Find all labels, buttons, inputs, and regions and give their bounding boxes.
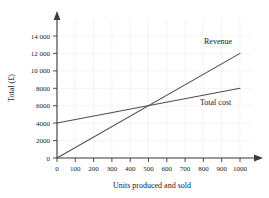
chart-plot-area: 0 2000 4000 6000 8000 10 000 12 000 14 0… [0,0,269,198]
y-tick-label: 12 000 [31,50,51,58]
x-tick-labels: 0 100 200 300 400 500 600 700 800 900 10… [55,165,247,173]
series-label-revenue: Revenue [204,37,232,46]
y-tick-label: 6000 [36,102,51,110]
x-axis-title: Units produced and sold [113,181,191,190]
y-axis-ticks [53,36,57,158]
break-even-chart: 0 2000 4000 6000 8000 10 000 12 000 14 0… [0,0,269,198]
y-tick-label: 4000 [36,120,51,128]
x-tick-label: 200 [88,165,99,173]
y-tick-label: 14 000 [31,33,51,41]
x-tick-label: 700 [180,165,191,173]
x-tick-label: 100 [70,165,81,173]
y-tick-labels: 0 2000 4000 6000 8000 10 000 12 000 14 0… [31,33,51,163]
series-label-total-cost: Total cost [200,98,232,107]
y-axis-arrow-icon [54,11,61,20]
x-tick-label: 0 [55,165,59,173]
y-tick-label: 0 [47,155,51,163]
x-axis [57,155,263,162]
x-tick-label: 500 [143,165,154,173]
x-tick-label: 400 [125,165,136,173]
x-tick-label: 300 [107,165,118,173]
y-axis [54,11,61,158]
x-tick-label: 800 [198,165,209,173]
y-axis-title: Total (£) [7,74,16,102]
x-axis-arrow-icon [254,155,263,162]
x-tick-label: 1000 [233,165,248,173]
gridlines-horizontal [57,36,252,158]
y-tick-label: 10 000 [31,67,51,75]
y-tick-label: 2000 [36,137,51,145]
y-tick-label: 8000 [36,85,51,93]
x-tick-label: 900 [216,165,227,173]
x-axis-ticks [57,158,240,162]
x-tick-label: 600 [162,165,173,173]
